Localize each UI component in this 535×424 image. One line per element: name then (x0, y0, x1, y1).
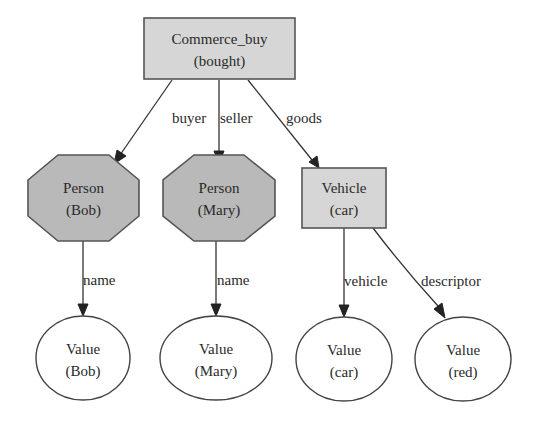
edge-label-buyer: buyer (172, 110, 206, 126)
edge-seller: seller (214, 80, 252, 163)
node-vehicle-car-value: (car) (330, 202, 358, 219)
node-value-bob[interactable]: Value (Bob) (36, 316, 130, 400)
node-value-red[interactable]: Value (red) (415, 317, 511, 401)
semantic-graph-diagram: buyer seller goods name name vehicle des… (0, 0, 535, 424)
edge-descriptor: descriptor (373, 228, 481, 318)
node-commerce-buy-value: (bought) (194, 53, 246, 70)
arrowhead-icon (211, 304, 221, 316)
edge-vehicle: vehicle (339, 228, 388, 317)
node-value-bob-type: Value (66, 341, 100, 357)
node-commerce-buy-type: Commerce_buy (172, 31, 268, 47)
arrowhead-icon (434, 303, 445, 318)
edge-name-bob: name (78, 241, 116, 316)
node-person-mary-value: (Mary) (198, 202, 240, 219)
node-person-bob-value: (Bob) (66, 202, 101, 219)
node-person-bob[interactable]: Person (Bob) (28, 155, 139, 241)
node-value-car[interactable]: Value (car) (296, 317, 392, 401)
node-value-car-value: (car) (330, 364, 358, 381)
edge-label-descriptor: descriptor (421, 273, 481, 289)
edge-label-vehicle: vehicle (344, 273, 388, 289)
node-value-bob-value: (Bob) (66, 363, 101, 380)
node-value-red-type: Value (446, 342, 480, 358)
arrowhead-icon (339, 305, 349, 317)
node-vehicle-car[interactable]: Vehicle (car) (302, 168, 386, 228)
node-value-mary-type: Value (199, 341, 233, 357)
node-value-mary[interactable]: Value (Mary) (160, 316, 272, 400)
edge-label-goods: goods (286, 110, 322, 126)
node-person-mary[interactable]: Person (Mary) (163, 155, 275, 241)
edge-buyer: buyer (114, 80, 206, 164)
node-vehicle-car-type: Vehicle (322, 180, 367, 196)
edge-goods: goods (248, 80, 322, 168)
edge-label-name-mary: name (217, 272, 250, 288)
node-value-car-type: Value (327, 342, 361, 358)
node-value-red-value: (red) (448, 364, 477, 381)
node-commerce-buy[interactable]: Commerce_buy (bought) (144, 18, 295, 79)
edge-label-name-bob: name (83, 272, 116, 288)
node-person-mary-type: Person (199, 180, 240, 196)
arrowhead-icon (78, 304, 88, 316)
edge-name-mary: name (211, 241, 250, 316)
edge-label-seller: seller (220, 110, 252, 126)
node-person-bob-type: Person (63, 180, 104, 196)
node-value-mary-value: (Mary) (195, 363, 237, 380)
